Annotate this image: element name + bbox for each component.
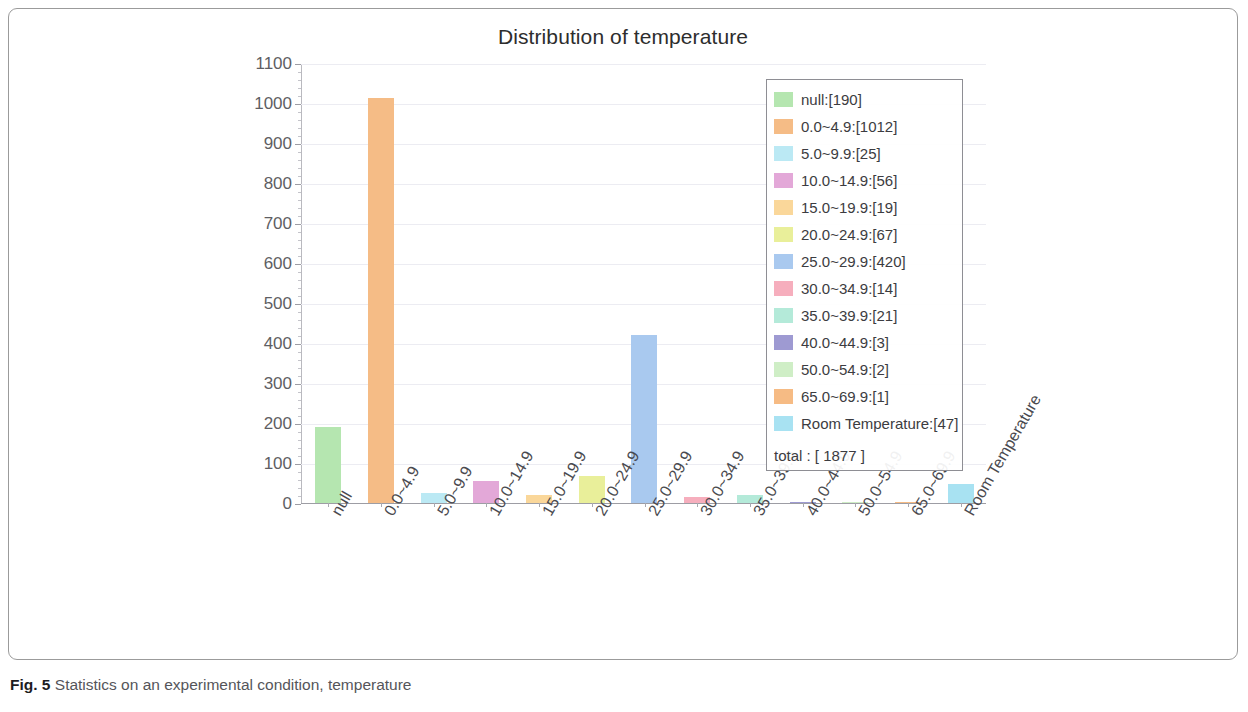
legend-color-swatch [774,254,793,269]
y-axis-tick-label: 600 [264,254,292,274]
y-axis-minor-tick [298,296,301,297]
legend-entry-label: null:[190] [801,91,862,108]
legend-entry-label: 40.0~44.9:[3] [801,334,889,351]
bar[interactable] [631,335,657,503]
legend-color-swatch [774,308,793,323]
y-axis-minor-tick [298,272,301,273]
legend-color-swatch [774,146,793,161]
y-axis-tick-mark [295,224,301,225]
y-axis-minor-tick [298,72,301,73]
bar-slot [407,64,460,503]
y-axis-tick-mark [295,464,301,465]
legend-entry[interactable]: 5.0~9.9:[25] [774,140,954,167]
y-axis-minor-tick [298,248,301,249]
y-axis-minor-tick [298,368,301,369]
y-axis-tick-mark [295,344,301,345]
legend-entries: null:[190]0.0~4.9:[1012]5.0~9.9:[25]10.0… [774,86,954,437]
legend-entry[interactable]: Room Temperature:[47] [774,410,954,437]
y-axis-minor-tick [298,496,301,497]
legend-entry-label: 30.0~34.9:[14] [801,280,897,297]
bar-slot [302,64,355,503]
bar-slot [460,64,513,503]
legend-entry-label: Room Temperature:[47] [801,415,958,432]
legend-entry[interactable]: 50.0~54.9:[2] [774,356,954,383]
figure-caption: Fig. 5 Statistics on an experimental con… [10,676,412,694]
legend-entry[interactable]: 15.0~19.9:[19] [774,194,954,221]
chart-area: Distribution of temperature 010020030040… [9,9,1237,659]
y-axis-tick-mark [295,304,301,305]
y-axis-tick-label: 0 [283,494,292,514]
legend-entry[interactable]: null:[190] [774,86,954,113]
y-axis-tick-label: 400 [264,334,292,354]
y-axis-tick-label: 200 [264,414,292,434]
y-axis-minor-tick [298,176,301,177]
y-axis-minor-tick [298,328,301,329]
bar[interactable] [368,98,394,503]
y-axis-minor-tick [298,400,301,401]
y-axis-tick-mark [295,504,301,505]
bar-slot [671,64,724,503]
y-axis-tick-mark [295,384,301,385]
y-axis-tick-mark [295,104,301,105]
y-axis-minor-tick [298,240,301,241]
y-axis-minor-tick [298,216,301,217]
caption-label: Fig. 5 [10,676,50,693]
y-axis-minor-tick [298,448,301,449]
x-axis-tick-mark [645,503,646,507]
y-axis-minor-tick [298,352,301,353]
legend-entry-label: 20.0~24.9:[67] [801,226,897,243]
y-axis-minor-tick [298,152,301,153]
y-axis-minor-tick [298,200,301,201]
y-axis-minor-tick [298,376,301,377]
y-axis-minor-tick [298,232,301,233]
legend-color-swatch [774,92,793,107]
legend-entry-label: 65.0~69.9:[1] [801,388,889,405]
y-axis-minor-tick [298,392,301,393]
legend-entry[interactable]: 10.0~14.9:[56] [774,167,954,194]
y-axis-tick-label: 1000 [254,94,292,114]
y-axis-tick-label: 900 [264,134,292,154]
y-axis-minor-tick [298,280,301,281]
legend-entry[interactable]: 20.0~24.9:[67] [774,221,954,248]
legend-entry[interactable]: 35.0~39.9:[21] [774,302,954,329]
y-axis-tick-mark [295,424,301,425]
y-axis-minor-tick [298,88,301,89]
bar-slot [355,64,408,503]
y-axis-minor-tick [298,456,301,457]
legend-entry[interactable]: 40.0~44.9:[3] [774,329,954,356]
y-axis-minor-tick [298,416,301,417]
y-axis-minor-tick [298,128,301,129]
y-axis-minor-tick [298,408,301,409]
legend-color-swatch [774,281,793,296]
figure-card: Distribution of temperature 010020030040… [8,8,1238,660]
legend-entry[interactable]: 65.0~69.9:[1] [774,383,954,410]
legend-entry[interactable]: 0.0~4.9:[1012] [774,113,954,140]
y-axis-tick-mark [295,184,301,185]
legend-entry-label: 50.0~54.9:[2] [801,361,889,378]
y-axis-minor-tick [298,320,301,321]
legend-color-swatch [774,200,793,215]
legend-entry-label: 10.0~14.9:[56] [801,172,897,189]
legend-entry-label: 0.0~4.9:[1012] [801,118,897,135]
legend-color-swatch [774,362,793,377]
legend-entry-label: 35.0~39.9:[21] [801,307,897,324]
caption-text: Statistics on an experimental condition,… [55,676,412,693]
y-axis-minor-tick [298,288,301,289]
legend-entry[interactable]: 30.0~34.9:[14] [774,275,954,302]
y-axis-tick-mark [295,64,301,65]
bar-slot [618,64,671,503]
y-axis-minor-tick [298,256,301,257]
y-axis-minor-tick [298,120,301,121]
x-axis-tick-mark [961,503,962,507]
y-axis-tick-mark [295,264,301,265]
chart-legend: null:[190]0.0~4.9:[1012]5.0~9.9:[25]10.0… [766,79,963,471]
y-axis-tick-label: 100 [264,454,292,474]
y-axis-minor-tick [298,80,301,81]
y-axis-tick-label: 700 [264,214,292,234]
legend-color-swatch [774,335,793,350]
legend-entry[interactable]: 25.0~29.9:[420] [774,248,954,275]
y-axis-tick-label: 500 [264,294,292,314]
y-axis-minor-tick [298,472,301,473]
y-axis-tick-label: 300 [264,374,292,394]
legend-entry-label: 5.0~9.9:[25] [801,145,881,162]
